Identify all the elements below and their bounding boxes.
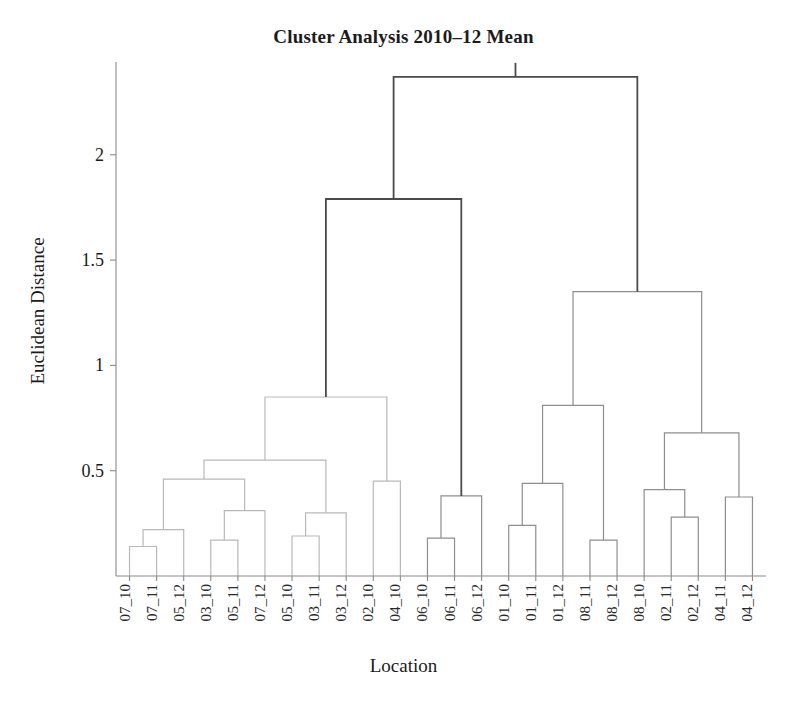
leaf-label-07_12: 07_12 bbox=[252, 584, 268, 622]
y-axis-ticks: 0.511.52 bbox=[82, 145, 117, 481]
leaf-label-06_11: 06_11 bbox=[442, 584, 458, 621]
dendrogram-link bbox=[427, 538, 454, 576]
y-tick-label: 1 bbox=[95, 355, 104, 375]
dendrogram-link bbox=[224, 511, 265, 576]
leaf-label-06_12: 06_12 bbox=[469, 584, 485, 622]
dendrogram-link bbox=[671, 517, 698, 576]
leaf-label-07_11: 07_11 bbox=[144, 584, 160, 621]
leaf-label-02_10: 02_10 bbox=[360, 584, 376, 622]
dendrogram-link bbox=[394, 77, 638, 292]
y-tick-label: 2 bbox=[95, 145, 104, 165]
dendrogram-link bbox=[373, 481, 400, 576]
dendrogram-link bbox=[130, 547, 157, 576]
dendrogram-link bbox=[590, 540, 617, 576]
dendrogram-link bbox=[211, 540, 238, 576]
dendrogram-link bbox=[326, 199, 461, 496]
y-axis-label: Euclidean Distance bbox=[27, 211, 49, 411]
leaf-label-03_10: 03_10 bbox=[198, 584, 214, 622]
dendrogram-link bbox=[509, 525, 536, 576]
leaf-label-01_11: 01_11 bbox=[523, 584, 539, 621]
leaf-label-01_10: 01_10 bbox=[496, 584, 512, 622]
x-axis-label: Location bbox=[0, 655, 807, 677]
dendrogram-link bbox=[143, 530, 184, 576]
leaf-label-01_12: 01_12 bbox=[550, 584, 566, 622]
leaf-label-08_11: 08_11 bbox=[577, 584, 593, 621]
dendrogram-links bbox=[130, 63, 753, 576]
dendrogram-link bbox=[725, 497, 752, 576]
dendrogram-link bbox=[292, 536, 319, 576]
x-axis-leaf-labels: 07_1007_1105_1203_1005_1107_1205_1003_11… bbox=[117, 576, 756, 622]
leaf-label-08_10: 08_10 bbox=[631, 584, 647, 622]
leaf-label-06_10: 06_10 bbox=[414, 584, 430, 622]
dendrogram-plot: 0.511.52 07_1007_1105_1203_1005_1107_120… bbox=[0, 0, 807, 708]
leaf-label-05_12: 05_12 bbox=[171, 584, 187, 622]
leaf-label-03_12: 03_12 bbox=[333, 584, 349, 622]
dendrogram-link bbox=[306, 513, 347, 576]
y-tick-label: 1.5 bbox=[82, 250, 105, 270]
leaf-label-05_11: 05_11 bbox=[225, 584, 241, 621]
dendrogram-link bbox=[543, 405, 604, 540]
dendrogram-link bbox=[163, 479, 244, 530]
leaf-label-04_12: 04_12 bbox=[739, 584, 755, 622]
leaf-label-02_11: 02_11 bbox=[658, 584, 674, 621]
dendrogram-link bbox=[522, 483, 563, 576]
dendrogram-figure: Cluster Analysis 2010–12 Mean 0.511.52 0… bbox=[0, 0, 807, 708]
leaf-label-07_10: 07_10 bbox=[117, 584, 133, 622]
leaf-label-05_10: 05_10 bbox=[279, 584, 295, 622]
dendrogram-link bbox=[664, 433, 738, 497]
leaf-label-04_10: 04_10 bbox=[387, 584, 403, 622]
dendrogram-link bbox=[644, 490, 685, 576]
leaf-label-03_11: 03_11 bbox=[306, 584, 322, 621]
y-tick-label: 0.5 bbox=[82, 461, 105, 481]
dendrogram-link bbox=[573, 292, 702, 433]
dendrogram-link bbox=[204, 460, 326, 513]
dendrogram-link bbox=[441, 496, 482, 576]
leaf-label-08_12: 08_12 bbox=[604, 584, 620, 622]
leaf-label-04_11: 04_11 bbox=[712, 584, 728, 621]
leaf-label-02_12: 02_12 bbox=[685, 584, 701, 622]
